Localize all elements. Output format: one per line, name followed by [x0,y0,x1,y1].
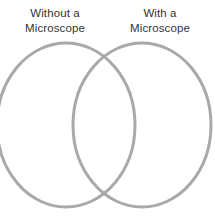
venn-diagram-canvas: Without a Microscope With a Microscope [0,0,215,216]
venn-circle-right [73,43,211,207]
venn-circle-left [0,43,135,207]
venn-circles-group [0,0,215,216]
